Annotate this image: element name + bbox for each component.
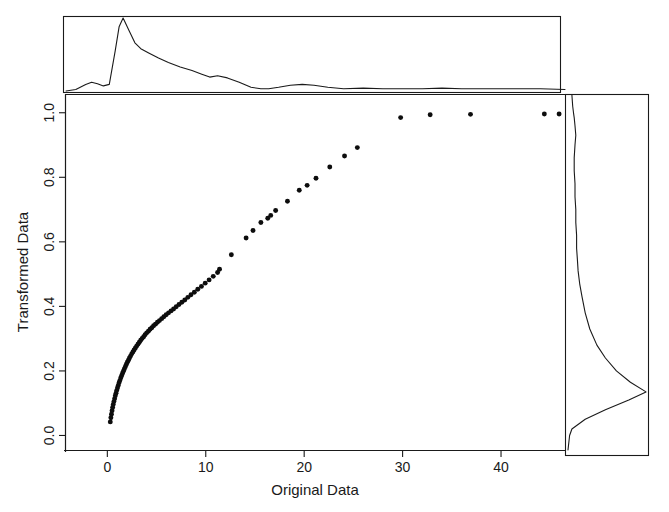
scatter-point <box>305 183 310 188</box>
y-tick-label: 0.4 <box>41 296 57 316</box>
x-axis-label: Original Data <box>271 481 359 498</box>
main-plot-panel: 0.00.20.40.60.81.0 010203040 <box>41 94 566 475</box>
scatter-with-marginal-densities: 0.00.20.40.60.81.0 010203040 Original Da… <box>0 0 669 512</box>
top-marginal-panel <box>64 17 566 93</box>
scatter-point <box>211 274 216 279</box>
scatter-point-series <box>108 112 562 425</box>
x-axis-tick-labels: 010203040 <box>103 459 509 475</box>
y-axis-tick-labels: 0.00.20.40.60.81.0 <box>41 103 57 445</box>
x-tick-label: 10 <box>198 459 214 475</box>
scatter-point <box>468 112 473 117</box>
scatter-point <box>229 252 234 257</box>
scatter-point <box>314 176 319 181</box>
right-density-curve <box>568 95 646 450</box>
y-tick-label: 0.8 <box>41 167 57 187</box>
scatter-point <box>542 112 547 117</box>
right-marginal-frame <box>566 95 649 456</box>
top-density-curve <box>66 18 565 91</box>
scatter-point <box>268 213 273 218</box>
y-tick-label: 0.0 <box>41 426 57 446</box>
x-tick-label: 20 <box>296 459 312 475</box>
scatter-point <box>355 145 360 150</box>
scatter-point <box>428 112 433 117</box>
scatter-point <box>297 188 302 193</box>
right-marginal-panel <box>566 95 649 456</box>
scatter-point <box>199 284 204 289</box>
scatter-point <box>342 154 347 159</box>
y-tick-label: 1.0 <box>41 103 57 123</box>
scatter-point <box>203 281 208 286</box>
y-tick-label: 0.6 <box>41 232 57 252</box>
scatter-point <box>108 419 113 424</box>
top-marginal-frame <box>64 17 561 93</box>
y-axis-ticks <box>59 113 65 436</box>
scatter-point <box>273 208 278 213</box>
scatter-point <box>207 277 212 282</box>
scatter-point <box>217 267 222 272</box>
scatter-point <box>258 220 263 225</box>
scatter-point <box>557 112 562 117</box>
x-tick-label: 0 <box>103 459 111 475</box>
scatter-point <box>251 228 256 233</box>
scatter-point <box>398 115 403 120</box>
x-tick-label: 40 <box>493 459 509 475</box>
scatter-point <box>327 165 332 170</box>
scatter-point <box>285 199 290 204</box>
x-tick-label: 30 <box>395 459 411 475</box>
scatter-point <box>244 236 249 241</box>
y-axis-label: Transformed Data <box>14 211 31 332</box>
x-axis-ticks <box>107 451 501 457</box>
y-tick-label: 0.2 <box>41 361 57 381</box>
